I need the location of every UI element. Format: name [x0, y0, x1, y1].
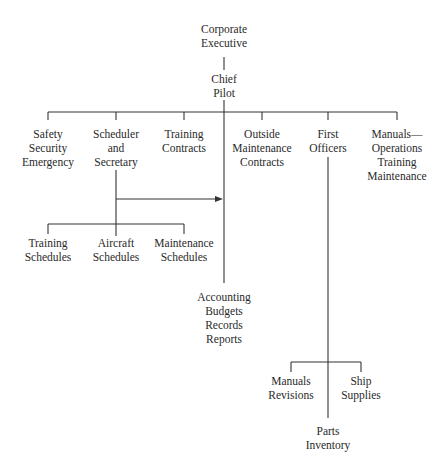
node-training-contracts: Training Contracts [162, 127, 206, 155]
node-aircraft-schedules: Aircraft Schedules [93, 236, 140, 264]
node-accounting: Accounting Budgets Records Reports [197, 290, 251, 346]
node-corporate-executive: Corporate Executive [201, 22, 247, 50]
node-chief-pilot: Chief Pilot [211, 72, 237, 100]
node-training-schedules: Training Schedules [25, 236, 72, 264]
node-scheduler: Scheduler and Secretary [93, 127, 139, 169]
node-maintenance-schedules: Maintenance Schedules [154, 236, 213, 264]
node-first-officers: First Officers [309, 127, 346, 155]
node-safety: Safety Security Emergency [22, 127, 74, 169]
node-ship-supplies: Ship Supplies [341, 374, 381, 402]
node-parts-inventory: Parts Inventory [306, 424, 351, 452]
node-manuals-revisions: Manuals Revisions [268, 374, 313, 402]
arrowhead-icon [215, 196, 223, 202]
node-outside-maintenance: Outside Maintenance Contracts [232, 127, 291, 169]
node-manuals: Manuals— Operations Training Maintenance [367, 127, 426, 183]
